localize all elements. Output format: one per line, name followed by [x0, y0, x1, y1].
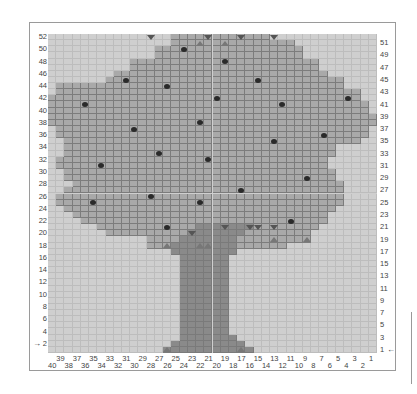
row-label-left: 22: [39, 217, 47, 225]
column-label: 18: [229, 362, 237, 370]
grid-cell: [122, 328, 130, 334]
grid-cell: [369, 46, 377, 52]
row-label-right: 37: [380, 125, 388, 133]
grid-cell: [122, 46, 130, 52]
grid-cell: [89, 65, 97, 71]
grid-cell: [229, 322, 237, 328]
grid-cell: [163, 261, 171, 267]
row-label-right: 35: [380, 137, 388, 145]
grid-cell: [89, 261, 97, 267]
grid-cell: [270, 292, 278, 298]
grid-cell: [336, 292, 344, 298]
grid-cell: [287, 322, 295, 328]
grid-cell: [336, 298, 344, 304]
grid-cell: [97, 230, 105, 236]
row-label-left: 28: [39, 180, 47, 188]
grid-cell: [130, 267, 138, 273]
grid-cell: [81, 316, 89, 322]
grid-cell: [81, 335, 89, 341]
grid-cell: [138, 304, 146, 310]
grid-cell: [336, 144, 344, 150]
grid-cell: [254, 322, 262, 328]
grid-cell: [64, 243, 72, 249]
grid-cell: [56, 175, 64, 181]
grid-cell: [303, 347, 311, 353]
grid-cell: [56, 328, 64, 334]
canopy-cell: [287, 236, 295, 242]
grid-cell: [369, 310, 377, 316]
grid-cell: [270, 347, 278, 353]
grid-cell: [229, 304, 237, 310]
grid-cell: [56, 347, 64, 353]
grid-cell: [155, 279, 163, 285]
grid-cell: [81, 273, 89, 279]
grid-cell: [262, 261, 270, 267]
grid-cell: [352, 279, 360, 285]
grid-cell: [369, 101, 377, 107]
grid-cell: [352, 151, 360, 157]
grid-cell: [336, 347, 344, 353]
grid-cell: [361, 187, 369, 193]
grid-cell: [352, 304, 360, 310]
grid-cell: [73, 341, 81, 347]
grid-cell: [138, 347, 146, 353]
grid-cell: [344, 230, 352, 236]
grid-cell: [270, 341, 278, 347]
row-label-left: 40: [39, 107, 47, 115]
grid-cell: [352, 328, 360, 334]
column-label: 10: [295, 362, 303, 370]
triangle-up-icon: [237, 347, 245, 352]
grid-cell: [336, 59, 344, 65]
grid-cell: [369, 194, 377, 200]
grid-cell: [48, 286, 56, 292]
grid-cell: [311, 230, 319, 236]
column-label: 19: [221, 355, 229, 363]
grid-cell: [155, 322, 163, 328]
grid-cell: [303, 322, 311, 328]
grid-cell: [81, 298, 89, 304]
column-label: 5: [336, 355, 340, 363]
row-label-left: 2: [43, 340, 47, 348]
grid-cell: [89, 286, 97, 292]
grid-cell: [336, 316, 344, 322]
grid-cell: [336, 169, 344, 175]
grid-cell: [328, 298, 336, 304]
grid-cell: [155, 316, 163, 322]
grid-cell: [48, 243, 56, 249]
grid-cell: [352, 310, 360, 316]
row-label-right: 29: [380, 174, 388, 182]
canopy-cell: [237, 243, 245, 249]
column-label: 40: [48, 362, 56, 370]
grid-cell: [155, 341, 163, 347]
column-label: 29: [139, 355, 147, 363]
grid-cell: [97, 65, 105, 71]
grid-cell: [311, 286, 319, 292]
grid-cell: [369, 335, 377, 341]
grid-cell: [361, 200, 369, 206]
row-label-left: 16: [39, 254, 47, 262]
row-label-right: 19: [380, 236, 388, 244]
grid-cell: [48, 316, 56, 322]
grid-cell: [287, 249, 295, 255]
column-label: 27: [155, 355, 163, 363]
grid-cell: [97, 328, 105, 334]
apple-icon: [181, 47, 187, 52]
row-label-right: 5: [380, 321, 384, 329]
column-label: 3: [352, 355, 356, 363]
grid-cell: [319, 236, 327, 242]
grid-cell: [64, 40, 72, 46]
row-label-right: 13: [380, 272, 388, 280]
triangle-down-icon: [237, 35, 245, 40]
grid-cell: [361, 341, 369, 347]
grid-cell: [48, 40, 56, 46]
column-label: 4: [344, 362, 348, 370]
grid-cell: [278, 316, 286, 322]
grid-cell: [352, 65, 360, 71]
grid-cell: [48, 46, 56, 52]
grid-cell: [336, 335, 344, 341]
grid-cell: [155, 267, 163, 273]
grid-cell: [48, 249, 56, 255]
grid-cell: [171, 328, 179, 334]
grid-cell: [81, 341, 89, 347]
grid-cell: [81, 71, 89, 77]
